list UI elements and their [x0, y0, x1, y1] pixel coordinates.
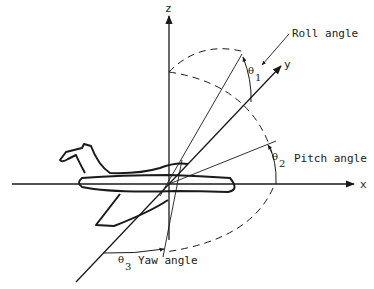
z-axis: z — [165, 2, 172, 240]
yaw-angle-label: Yaw angle — [138, 254, 198, 267]
yaw-theta-symbol: θ — [118, 254, 124, 265]
pitch-theta-subscript: 2 — [279, 158, 285, 169]
pitch-plane-arc — [169, 72, 274, 160]
x-axis: x — [12, 178, 367, 191]
roll-theta-subscript: 1 — [255, 72, 261, 83]
z-axis-label: z — [165, 2, 172, 15]
wing — [96, 194, 168, 226]
x-axis-label: x — [360, 178, 367, 191]
roll-theta-symbol: θ — [248, 65, 254, 76]
pitch-angle-label: Pitch angle — [294, 152, 367, 165]
aircraft-icon — [60, 144, 235, 226]
roll-angle-label: Roll angle — [292, 27, 358, 40]
aircraft-axes-diagram: z x y Roll angle θ — [0, 0, 374, 289]
pitch-theta-symbol: θ — [272, 151, 278, 162]
yaw-plane-arc — [165, 188, 273, 252]
yaw-angle-arc — [104, 249, 164, 253]
roll-angle-arc — [243, 57, 251, 102]
yaw-theta-subscript: 3 — [125, 261, 131, 272]
y-axis-label: y — [284, 58, 291, 71]
angle-indicators — [104, 57, 276, 253]
